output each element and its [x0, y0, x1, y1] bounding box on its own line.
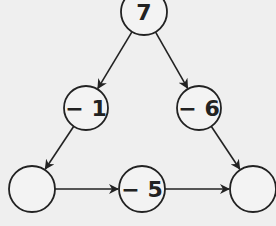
- node-label: 7: [136, 0, 151, 25]
- number-triangle-diagram: 7− 1− 6− 5: [0, 0, 276, 226]
- arrow-left-mid-to-bottom-left: [45, 126, 73, 169]
- node-bottom-mid: − 5: [119, 166, 165, 212]
- node-label: − 6: [178, 96, 219, 121]
- node-bottom-right[interactable]: [230, 166, 276, 212]
- arrow-top-to-right-mid: [155, 32, 187, 88]
- node-bottom-left[interactable]: [9, 166, 55, 212]
- nodes: 7− 1− 6− 5: [9, 0, 276, 212]
- node-circle: [230, 166, 276, 212]
- arrow-top-to-left-mid: [98, 32, 132, 89]
- node-left-mid: − 1: [64, 86, 108, 130]
- node-top: 7: [121, 0, 167, 35]
- node-right-mid: − 6: [177, 86, 221, 130]
- arrow-right-mid-to-bottom-right: [211, 126, 239, 169]
- node-circle: [9, 166, 55, 212]
- node-label: − 1: [65, 96, 106, 121]
- node-label: − 5: [121, 177, 162, 202]
